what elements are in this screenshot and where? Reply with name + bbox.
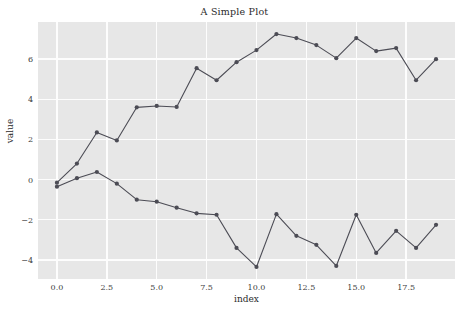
x-tick-label: 17.5 [386,283,426,292]
data-point [314,243,318,247]
plot-area [38,22,455,279]
data-point [95,130,99,134]
data-point [55,185,59,189]
data-point [374,49,378,53]
data-point [274,212,278,216]
data-point [234,60,238,64]
data-point [254,48,258,52]
data-series-lower [55,170,438,269]
data-point [75,176,79,180]
data-series-upper [55,32,438,185]
data-point [155,104,159,108]
data-point [294,234,298,238]
data-point [374,251,378,255]
data-point [294,36,298,40]
y-axis-label: value [5,101,15,161]
data-point [434,57,438,61]
data-point [115,138,119,142]
data-point [175,105,179,109]
x-tick-label: 7.5 [187,283,227,292]
data-point [354,213,358,217]
chart-figure: A Simple Plot 6420−2−4 0.02.55.07.510.01… [0,0,469,312]
series-line [57,172,436,267]
data-point [414,78,418,82]
x-tick-label: 15.0 [336,283,376,292]
data-point [394,46,398,50]
data-point [214,78,218,82]
x-tick-label: 10.0 [236,283,276,292]
data-point [195,211,199,215]
data-point [95,170,99,174]
data-point [234,246,238,250]
y-tick-label: −4 [3,255,33,264]
chart-title: A Simple Plot [0,6,469,17]
data-point [55,181,59,185]
data-point [434,223,438,227]
data-point [334,264,338,268]
y-tick-label: 0 [3,175,33,184]
data-point [175,206,179,210]
x-tick-label: 0.0 [37,283,77,292]
data-series-svg [38,22,455,279]
data-point [135,198,139,202]
data-point [115,182,119,186]
x-tick-label: 2.5 [87,283,127,292]
data-point [354,36,358,40]
y-tick-label: −2 [3,215,33,224]
data-point [135,105,139,109]
data-point [75,161,79,165]
data-point [274,32,278,36]
data-point [254,265,258,269]
data-point [334,56,338,60]
data-point [195,66,199,70]
x-tick-label: 5.0 [137,283,177,292]
data-point [155,200,159,204]
data-point [314,43,318,47]
series-line [57,34,436,183]
data-point [214,213,218,217]
y-tick-label: 6 [3,55,33,64]
data-point [394,229,398,233]
x-tick-label: 12.5 [286,283,326,292]
x-axis-label: index [38,294,455,304]
data-point [414,246,418,250]
